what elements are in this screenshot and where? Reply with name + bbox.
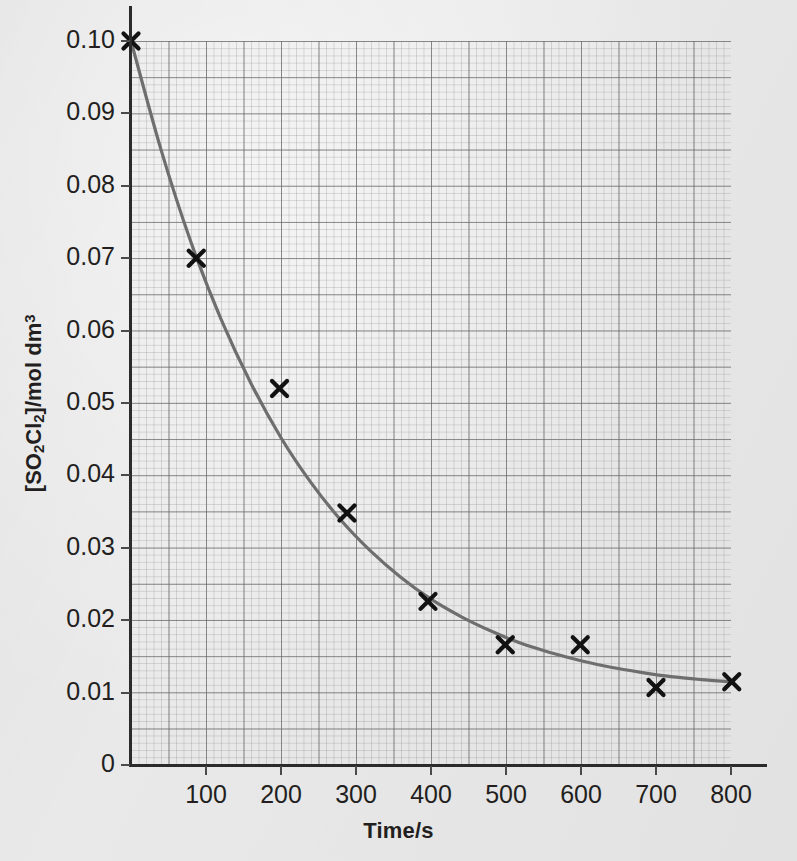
y-tick-label: 0 <box>5 749 115 778</box>
y-tick-label-wrap: 0.03 <box>0 532 115 562</box>
y-tick-label-wrap: 0.04 <box>0 459 115 489</box>
x-tick-mark <box>280 766 282 775</box>
y-tick-label: 0.10 <box>5 25 115 54</box>
y-axis-title-close: ]/mol dm <box>21 323 46 415</box>
x-tick-mark <box>205 766 207 775</box>
y-axis-spine <box>129 6 132 767</box>
y-axis-title: [SO2Cl2]/mol dm3 <box>21 73 48 733</box>
y-tick-mark <box>121 40 130 42</box>
y-tick-label-wrap: 0.02 <box>0 604 115 634</box>
plot-svg <box>131 41 731 765</box>
y-tick-mark <box>121 692 130 694</box>
y-tick-label-wrap: 0.10 <box>0 25 115 55</box>
x-tick-mark <box>355 766 357 775</box>
x-tick-mark <box>655 766 657 775</box>
x-axis-spine <box>129 764 767 767</box>
y-tick-mark <box>121 402 130 404</box>
y-tick-mark <box>121 474 130 476</box>
data-point-marker-x <box>272 381 287 396</box>
y-tick-mark <box>121 619 130 621</box>
y-tick-label-wrap: 0.08 <box>0 170 115 200</box>
data-point-marker-x <box>649 680 664 695</box>
y-tick-mark <box>121 257 130 259</box>
y-tick-label-wrap: 0.01 <box>0 677 115 707</box>
plot-area <box>131 41 731 765</box>
y-tick-mark <box>121 112 130 114</box>
y-axis-title-sub1: 2 <box>30 445 47 453</box>
y-axis-title-sub2: 2 <box>30 414 47 422</box>
y-axis-title-mid: Cl <box>21 423 46 445</box>
y-tick-label-wrap: 0.09 <box>0 97 115 127</box>
x-axis-title: Time/s <box>0 818 797 844</box>
x-tick-label: 800 <box>686 780 776 809</box>
data-point-marker-x <box>498 637 513 652</box>
chart-figure: 00.010.020.030.040.050.060.070.080.090.1… <box>0 0 797 861</box>
y-tick-label-wrap: 0.07 <box>0 242 115 272</box>
x-tick-mark <box>730 766 732 775</box>
x-tick-mark <box>580 766 582 775</box>
y-tick-label-wrap: 0.06 <box>0 315 115 345</box>
data-point-markers <box>124 34 740 696</box>
x-tick-mark <box>505 766 507 775</box>
y-axis-title-sup: 3 <box>21 314 38 322</box>
y-tick-label-wrap: 0.05 <box>0 387 115 417</box>
data-point-marker-x <box>340 506 355 521</box>
y-tick-mark <box>121 547 130 549</box>
x-tick-mark <box>430 766 432 775</box>
y-tick-mark <box>121 764 130 766</box>
y-axis-title-open: [SO <box>21 453 46 492</box>
y-tick-mark <box>121 330 130 332</box>
y-tick-mark <box>121 185 130 187</box>
decay-curve-line <box>131 41 731 682</box>
data-point-marker-x <box>573 637 588 652</box>
y-tick-label-wrap: 0 <box>0 749 115 779</box>
